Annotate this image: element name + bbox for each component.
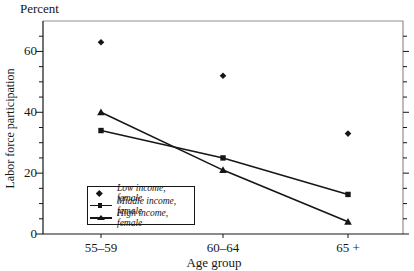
marker-diamond-1 xyxy=(220,72,227,79)
diamond-icon xyxy=(96,190,102,196)
legend-marker-diamond xyxy=(90,187,115,199)
square-icon xyxy=(98,203,103,208)
marker-diamond-2 xyxy=(345,130,352,137)
y-axis-unit-label: Percent xyxy=(20,1,59,17)
x-tick-label-65plus: 65 + xyxy=(313,240,383,256)
marker-square-0 xyxy=(98,128,103,133)
x-axis-title: Age group xyxy=(174,255,254,271)
x-tick-label-55-59: 55–59 xyxy=(66,240,136,256)
plot-canvas xyxy=(0,0,414,271)
marker-square-2 xyxy=(345,192,350,197)
triangle-icon xyxy=(97,215,105,220)
legend-marker-triangle-line xyxy=(90,212,115,224)
marker-diamond-0 xyxy=(98,39,105,46)
marker-triangle-0 xyxy=(97,108,105,115)
chart-figure: Percent Labor force participation Age gr… xyxy=(0,0,414,271)
legend: Low income, female Middle income, female… xyxy=(87,186,195,225)
legend-item-high-income: High income, female xyxy=(90,212,192,224)
marker-square-1 xyxy=(220,155,225,160)
y-tick-label-40: 40 xyxy=(7,105,37,119)
legend-marker-square-line xyxy=(90,200,115,212)
y-tick-label-20: 20 xyxy=(7,166,37,180)
legend-label: High income, female xyxy=(117,208,192,228)
y-tick-label-60: 60 xyxy=(7,44,37,58)
y-tick-label-0: 0 xyxy=(7,227,37,241)
x-tick-label-60-64: 60–64 xyxy=(188,240,258,256)
